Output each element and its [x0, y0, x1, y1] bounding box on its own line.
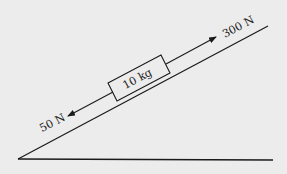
ground-line — [18, 159, 273, 160]
arrow-up-slope-icon — [166, 37, 216, 64]
inclined-plane-diagram: 10 kg 300 N 50 N — [0, 0, 287, 174]
force-label-50n: 50 N — [37, 111, 67, 135]
force-label-300n: 300 N — [220, 13, 257, 41]
incline-line — [18, 26, 268, 159]
